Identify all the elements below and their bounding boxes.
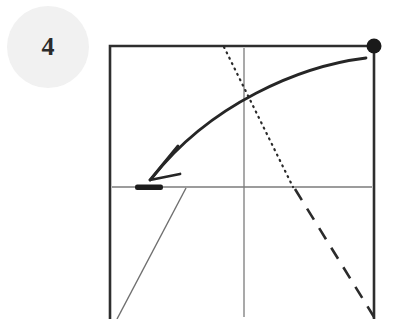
corner-reference-dot (367, 39, 382, 54)
step-number-badge (7, 6, 89, 88)
thick-edge-marker (135, 185, 163, 191)
diagram-canvas: 4 (0, 0, 400, 319)
origami-step-diagram (0, 0, 400, 319)
